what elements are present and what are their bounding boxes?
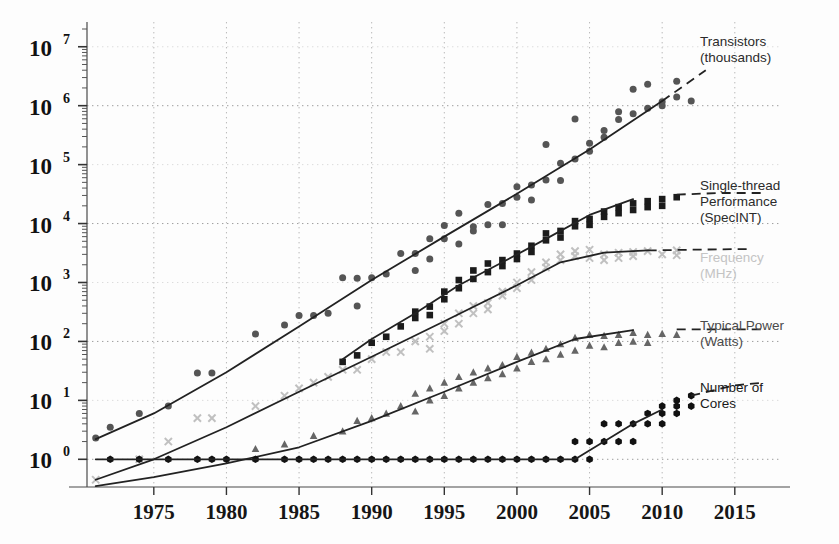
data-point-circle [572,116,579,123]
data-point-triangle [426,384,434,391]
axes [69,22,790,487]
data-point-circle [513,183,520,190]
y-axis-tick-label: 10 [29,330,52,355]
data-point-circle [484,201,491,208]
data-point-square [485,260,492,267]
data-point-circle [252,330,259,337]
data-point-triangle [658,330,666,337]
data-point-hexagon [688,402,695,410]
y-axis-tick-label: 10 [29,213,52,238]
data-point-square [586,222,593,229]
trend-line-dashed [662,70,706,101]
data-point-square [470,267,477,274]
data-point-square [601,214,608,221]
legend-layer: Transistors(thousands)Single-threadPerfo… [700,34,785,411]
data-point-circle [296,312,303,319]
legend-label-series-4: Number of [700,380,763,395]
legend-label-series-4: Cores [700,396,736,411]
data-point-triangle [252,445,260,452]
data-point-square [456,277,463,284]
data-point-square [659,203,666,210]
trend-line-solid [96,250,648,479]
data-point-circle [354,302,361,309]
data-point-triangle [513,353,521,360]
series-points [339,194,680,365]
y-axis-tick-exponent: 5 [63,150,70,165]
data-point-hexagon [586,456,593,464]
data-point-hexagon [630,438,637,446]
data-point-cross [528,269,535,276]
data-point-hexagon [644,420,651,428]
x-axis-tick-label: 2015 [714,500,756,524]
data-point-circle [107,424,114,431]
data-point-circle [499,221,506,228]
microprocessor-trend-chart: 100101102103104105106107 197519801985199… [0,0,839,544]
data-point-triangle [586,342,594,349]
data-point-cross [165,438,172,445]
data-point-cross [441,327,448,334]
data-point-triangle [411,407,419,414]
data-point-cross [659,251,666,258]
data-point-circle [688,98,695,105]
data-point-square [615,210,622,217]
data-point-triangle [557,351,565,358]
data-point-hexagon [659,420,666,428]
data-point-cross [484,306,491,313]
data-point-circle [470,223,477,230]
data-point-triangle [281,440,289,447]
data-point-cross [252,402,259,409]
data-point-triangle [470,368,478,375]
chart-canvas: 100101102103104105106107 197519801985199… [0,0,839,544]
series-0 [92,70,706,441]
data-point-hexagon [673,397,680,405]
data-point-circle [354,275,361,282]
legend-label-series-0: (thousands) [700,50,771,65]
data-point-circle [441,222,448,229]
data-point-circle [484,221,491,228]
y-axis-ticks: 100101102103104105106107 [29,29,87,473]
data-point-circle [412,267,419,274]
data-point-cross [194,415,201,422]
data-point-circle [455,210,462,217]
y-axis-tick-exponent: 2 [63,326,70,341]
data-point-circle [615,116,622,123]
data-point-circle [194,370,201,377]
y-axis-tick-exponent: 7 [63,32,70,47]
trend-line-solid [96,101,662,439]
y-axis-tick-label: 10 [29,448,52,473]
data-point-triangle [513,364,521,371]
data-point-triangle [455,373,463,380]
data-point-triangle [629,337,637,344]
data-point-triangle [615,339,623,346]
data-point-circle [673,94,680,101]
data-point-cross [630,253,637,260]
data-point-hexagon [615,420,622,428]
x-axis-tick-label: 1975 [133,500,175,524]
legend-label-series-3: (Watts) [700,334,743,349]
trend-line-solid [96,330,633,486]
data-point-circle [281,322,288,329]
data-point-cross [600,256,607,263]
data-point-circle [601,127,608,134]
x-axis-tick-label: 1990 [351,500,393,524]
x-axis-tick-label: 1980 [205,500,247,524]
data-point-triangle [644,339,652,346]
legend-label-series-1: Single-thread [700,178,780,193]
y-axis-tick-label: 10 [29,95,52,120]
legend-label-series-1: (SpecINT) [700,210,762,225]
data-point-cross [673,252,680,259]
x-axis-tick-label: 2000 [496,500,538,524]
y-axis-tick-exponent: 6 [63,91,70,106]
data-point-square [543,230,550,237]
data-point-hexagon [572,438,579,446]
y-axis-tick-label: 10 [29,271,52,296]
data-point-triangle [310,432,318,439]
data-point-cross [426,333,433,340]
data-point-triangle [571,347,579,354]
data-point-circle [630,86,637,93]
data-point-circle [673,78,680,85]
data-point-square [426,312,433,319]
data-point-circle [397,250,404,257]
data-point-hexagon [673,410,680,418]
y-axis-tick-label: 10 [29,36,52,61]
